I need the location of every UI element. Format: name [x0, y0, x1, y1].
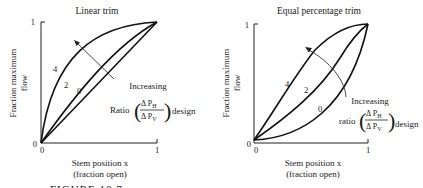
curve-label-0: 0 [77, 86, 81, 96]
chart-linear-trim: Linear trim 1 0 0 1 Fraction maximum flo… [8, 6, 196, 179]
figure-canvas: Linear trim 1 0 0 1 Fraction maximum flo… [0, 0, 423, 188]
chart-equal-percentage-trim: Equal percentage trim 1 0 0 1 Fraction m… [221, 6, 419, 179]
arrowhead-icon [305, 47, 312, 53]
paren-right: ) [164, 98, 171, 123]
curve-label-4: 4 [53, 64, 58, 74]
y-axis-label-sub: flow [232, 74, 242, 91]
annotation-numerator: Δ PH [366, 109, 382, 119]
chart-title: Linear trim [76, 6, 120, 16]
y-axis-label: Fraction maximum [8, 49, 18, 118]
y-axis-label-sub: flow [19, 74, 29, 91]
annotation-denominator: Δ PV [366, 122, 382, 132]
x-axis-label: Stem position x [72, 158, 129, 168]
annotation-suffix: design [395, 119, 419, 129]
annotation-suffix: design [172, 106, 196, 116]
figure-caption: FIGURE 10.7 [50, 183, 123, 188]
curve-label-0: 0 [318, 104, 322, 114]
curve-label-2: 2 [304, 85, 308, 95]
y-tick-label-0: 0 [247, 139, 251, 149]
chart-title: Equal percentage trim [277, 6, 361, 16]
annotation-prefix: Ratio [110, 105, 130, 115]
y-tick-label-0: 0 [33, 139, 37, 149]
annotation-increasing: Increasing [129, 81, 167, 91]
x-axis-label-sub: (fraction open) [286, 169, 340, 179]
x-tick-label-0: 0 [254, 145, 258, 155]
annotation-denominator: Δ PV [141, 112, 157, 122]
x-tick-label-0: 0 [40, 145, 44, 155]
y-axis-label: Fraction maximum [221, 49, 231, 118]
annotation-numerator: Δ PH [141, 99, 157, 109]
x-axis-label-sub: (fraction open) [73, 169, 127, 179]
annotation-increasing: Increasing [351, 96, 389, 106]
y-tick-label-1: 1 [245, 20, 249, 30]
curve-label-2: 2 [64, 80, 68, 90]
annotation-prefix: ratio [339, 116, 356, 126]
y-tick-label-1: 1 [31, 17, 35, 27]
x-tick-label-1: 1 [366, 145, 370, 155]
x-tick-label-1: 1 [155, 145, 159, 155]
x-axis-label: Stem position x [285, 158, 342, 168]
